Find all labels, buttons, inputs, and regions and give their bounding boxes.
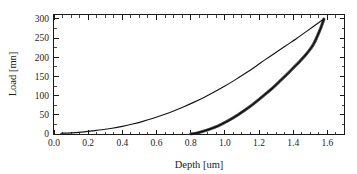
y-tick-label: 250 — [35, 33, 50, 43]
y-axis-title: Load [mn] — [7, 52, 18, 97]
y-tick-label: 200 — [35, 53, 50, 63]
figure-container: 0.00.20.40.60.81.01.21.41.6 050100150200… — [0, 0, 357, 174]
y-tick-label: 0 — [44, 129, 49, 139]
x-tick-label: 1.2 — [253, 138, 265, 148]
x-tick-label: 0.4 — [116, 138, 128, 148]
x-axis-title: Depth [um] — [175, 159, 224, 170]
x-tick-label: 0.8 — [185, 138, 197, 148]
load-depth-chart: 0.00.20.40.60.81.01.21.41.6 050100150200… — [0, 0, 357, 174]
x-tick-label: 1.4 — [287, 138, 299, 148]
x-tick-label: 1.0 — [219, 138, 231, 148]
y-tick-label: 150 — [35, 72, 50, 82]
y-tick-label: 50 — [40, 110, 50, 120]
x-tick-label: 0.0 — [48, 138, 60, 148]
y-tick-label: 300 — [35, 14, 50, 24]
x-tick-label: 1.6 — [321, 138, 333, 148]
x-axis-tick-labels: 0.00.20.40.60.81.01.21.41.6 — [48, 138, 334, 148]
y-tick-label: 100 — [35, 91, 50, 101]
x-tick-label: 0.2 — [82, 138, 94, 148]
x-tick-label: 0.6 — [151, 138, 163, 148]
